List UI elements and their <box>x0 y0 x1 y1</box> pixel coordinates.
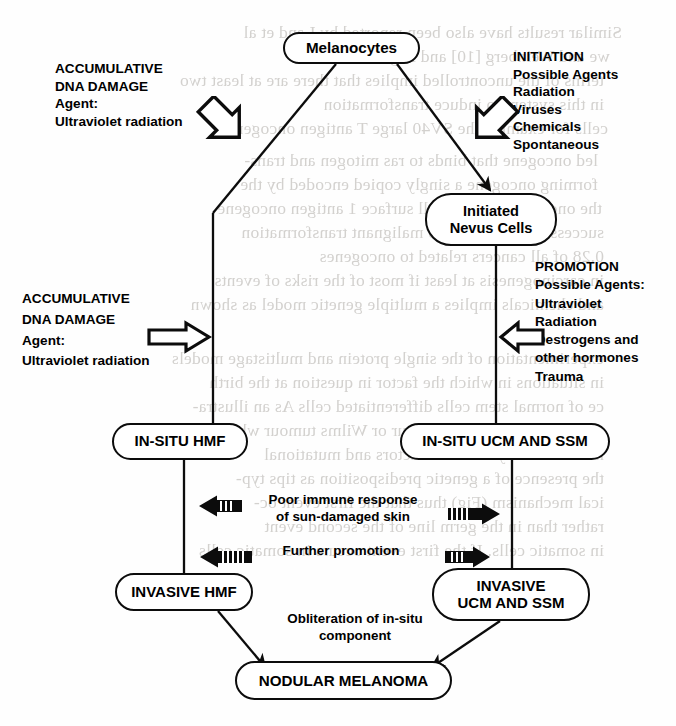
solid-arrow-further-promotion-left <box>198 546 256 568</box>
accumulative-bottom-line1: ACCUMULATIVE <box>22 289 150 310</box>
annotation-initiation: INITIATION Possible Agents Radiation Vir… <box>513 48 618 154</box>
hollow-arrow-accumulative-bottom <box>146 320 212 354</box>
initiation-line2: Possible Agents <box>513 66 618 84</box>
annotation-accumulative-dna-damage-top: ACCUMULATIVE DNA DAMAGE Agent: Ultraviol… <box>55 60 183 130</box>
node-melanocytes: Melanocytes <box>283 32 420 64</box>
accumulative-bottom-line2: DNA DAMAGE <box>22 310 150 331</box>
node-insitu-ucm-ssm-label: IN-SITU UCM AND SSM <box>422 433 587 450</box>
node-invasive-hmf: INVASIVE HMF <box>115 573 253 611</box>
promotion-line2: Possible Agents: <box>535 276 645 294</box>
node-initiated-nevus-cells: Initiated Nevus Cells <box>425 193 557 246</box>
promotion-line3: Ultraviolet <box>535 295 645 313</box>
accumulative-bottom-line3: Agent: <box>22 331 150 352</box>
promotion-line6: other hormones <box>535 349 645 367</box>
solid-arrow-further-promotion-right <box>442 546 492 568</box>
poor-immune-line1: Poor immune response <box>228 492 458 509</box>
node-initiated-nevus-cells-line2: Nevus Cells <box>450 220 533 236</box>
annotation-further-promotion: Further promotion <box>256 543 426 560</box>
accumulative-bottom-line4: Ultraviolet radiation <box>22 351 150 372</box>
accumulative-top-line1: ACCUMULATIVE <box>55 60 183 78</box>
scanned-figure: Similar results have also been reported … <box>0 0 676 726</box>
node-initiated-nevus-cells-line1: Initiated <box>463 203 519 219</box>
node-nodular-melanoma-label: NODULAR MELANOMA <box>259 672 429 689</box>
further-promotion-line1: Further promotion <box>256 543 426 560</box>
annotation-accumulative-dna-damage-bottom: ACCUMULATIVE DNA DAMAGE Agent: Ultraviol… <box>22 289 150 372</box>
solid-arrow-poor-immune-right <box>444 503 502 525</box>
initiation-line4: Viruses <box>513 101 618 119</box>
promotion-line5: Oestrogens and <box>535 331 645 349</box>
poor-immune-line2: of sun-damaged skin <box>228 509 458 526</box>
hollow-arrow-accumulative-top <box>196 96 250 146</box>
annotation-poor-immune-response: Poor immune response of sun-damaged skin <box>228 492 458 525</box>
node-invasive-ucm-ssm-line1: INVASIVE <box>477 578 546 595</box>
node-invasive-hmf-label: INVASIVE HMF <box>131 584 237 601</box>
promotion-line4: Radiation <box>535 313 645 331</box>
obliteration-line1: Obliteration of in-situ <box>250 611 460 628</box>
promotion-line7: Trauma <box>535 368 645 386</box>
initiation-line6: Spontaneous <box>513 136 618 154</box>
solid-arrow-poor-immune-left <box>198 495 244 517</box>
annotation-promotion: PROMOTION Possible Agents: Ultraviolet R… <box>535 258 645 386</box>
accumulative-top-line2: DNA DAMAGE <box>55 78 183 96</box>
node-insitu-hmf-label: IN-SITU HMF <box>135 433 226 450</box>
hollow-arrow-initiation <box>466 96 520 146</box>
annotation-obliteration-of-insitu-component: Obliteration of in-situ component <box>250 611 460 644</box>
accumulative-top-line3: Agent: <box>55 95 183 113</box>
obliteration-line2: component <box>250 628 460 645</box>
initiation-line5: Chemicals <box>513 118 618 136</box>
initiation-line3: Radiation <box>513 83 618 101</box>
node-insitu-ucm-ssm: IN-SITU UCM AND SSM <box>400 423 610 460</box>
node-nodular-melanoma: NODULAR MELANOMA <box>235 661 452 700</box>
initiation-line1: INITIATION <box>513 48 618 66</box>
node-invasive-ucm-ssm-line2: UCM AND SSM <box>458 595 565 612</box>
node-melanocytes-label: Melanocytes <box>306 39 397 56</box>
accumulative-top-line4: Ultraviolet radiation <box>55 113 183 131</box>
node-insitu-hmf: IN-SITU HMF <box>112 423 248 460</box>
hollow-arrow-promotion <box>498 320 546 354</box>
promotion-line1: PROMOTION <box>535 258 645 276</box>
